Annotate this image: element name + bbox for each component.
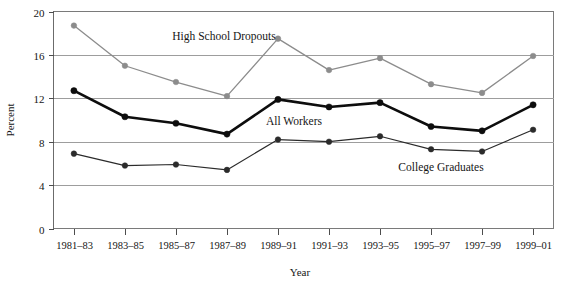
x-tick-label: 1989–91 (260, 240, 297, 251)
x-tick-label: 1985–87 (158, 240, 195, 251)
data-point (326, 67, 332, 73)
y-tick-label: 4 (39, 180, 45, 192)
data-point (377, 100, 383, 106)
data-point (122, 114, 128, 120)
data-point (479, 149, 485, 155)
series-label: High School Dropouts (172, 30, 276, 43)
y-tick-label: 20 (34, 7, 46, 19)
series-line (74, 91, 533, 134)
chart-container: 048121620 1981–831983–851985–871987–8919… (0, 0, 568, 283)
series-layer (71, 23, 536, 173)
x-tick-label: 1993–95 (362, 240, 399, 251)
data-point (428, 81, 434, 87)
data-point (428, 147, 434, 153)
x-tick-label: 1997–99 (464, 240, 501, 251)
series-label: All Workers (266, 115, 323, 127)
data-point (173, 79, 179, 85)
data-point (530, 102, 536, 108)
data-point (377, 55, 383, 61)
series-label: College Graduates (398, 161, 484, 174)
data-point (71, 151, 77, 157)
y-tickmarks (49, 13, 54, 230)
y-tick-label: 8 (39, 137, 45, 149)
y-axis-title: Percent (4, 104, 16, 137)
data-point (224, 167, 230, 173)
data-point (224, 131, 230, 137)
x-tick-labels: 1981–831983–851985–871987–891989–911991–… (56, 240, 552, 251)
series-all-workers (71, 88, 536, 138)
data-point (275, 36, 281, 42)
data-point (71, 88, 77, 94)
data-point (377, 133, 383, 139)
data-point (275, 96, 281, 102)
data-point (173, 162, 179, 168)
data-point (71, 23, 77, 29)
series-line (74, 26, 533, 97)
data-point (275, 137, 281, 143)
data-point (530, 53, 536, 59)
x-tick-label: 1983–85 (107, 240, 144, 251)
data-point (173, 120, 179, 126)
data-point (122, 63, 128, 69)
data-point (326, 139, 332, 145)
x-tick-label: 1987–89 (209, 240, 246, 251)
data-point (428, 123, 434, 129)
data-point (224, 93, 230, 99)
data-point (326, 104, 332, 110)
x-tick-label: 1995–97 (413, 240, 450, 251)
series-annotations: High School DropoutsAll WorkersCollege G… (172, 30, 484, 174)
y-tick-label: 12 (34, 93, 45, 105)
y-tick-label: 16 (34, 50, 46, 62)
data-point (479, 90, 485, 96)
line-chart: 048121620 1981–831983–851985–871987–8919… (0, 0, 568, 283)
series-high-school-dropouts (71, 23, 536, 99)
x-axis-title: Year (290, 266, 311, 278)
data-point (530, 127, 536, 133)
y-tick-labels: 048121620 (34, 7, 46, 236)
x-tick-label: 1991–93 (311, 240, 348, 251)
x-tick-label: 1999–01 (515, 240, 552, 251)
x-tickmarks (75, 229, 534, 235)
y-tick-label: 0 (39, 224, 45, 236)
data-point (122, 163, 128, 169)
x-tick-label: 1981–83 (56, 240, 93, 251)
data-point (479, 128, 485, 134)
